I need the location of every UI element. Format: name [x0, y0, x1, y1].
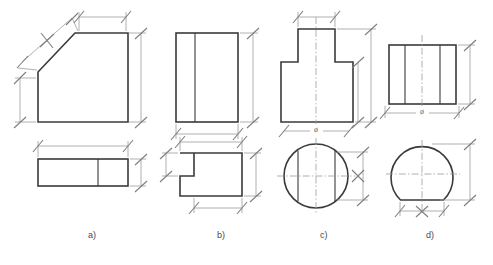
dimension-c-boss-width: [293, 11, 340, 27]
dimension-left-height: [14, 72, 36, 128]
figure-label-a: a): [88, 230, 96, 240]
dimension-top-width: [74, 11, 131, 31]
figure-label-b: b): [217, 230, 225, 240]
dimension-d-diameter: ø: [380, 106, 464, 119]
t-shaped-boss-front-view: [281, 17, 353, 133]
dimension-d-height: [458, 40, 476, 110]
diameter-symbol-c: ø: [314, 125, 318, 134]
figure-b: [160, 28, 262, 214]
dimension-plan-depth: [130, 154, 147, 192]
dimension-c-diameter: ø: [279, 124, 354, 137]
flat-cut-cylinder-front-view: [389, 35, 456, 115]
drawing-sheet: .obj{fill:none;stroke:#3a3a3a;stroke-wid…: [0, 0, 493, 265]
dimension-b-notch-height: [160, 148, 178, 182]
stepped-block-top-view: [180, 153, 242, 196]
technical-drawing-canvas: .obj{fill:none;stroke:#3a3a3a;stroke-wid…: [0, 0, 493, 265]
diameter-symbol-d: ø: [420, 107, 424, 116]
dimension-b-front-height: [240, 28, 259, 128]
figure-a: [14, 11, 147, 192]
dimension-plan-width: [33, 140, 133, 157]
dimension-b-front-width: [171, 124, 243, 140]
figure-label-c: c): [320, 230, 328, 240]
dimension-b-notch-width: [189, 198, 247, 214]
flat-cut-cylinder-top-view: [386, 140, 460, 210]
stepped-block-front-view: [176, 33, 238, 122]
dimension-c-overall-height: [337, 24, 377, 128]
figure-label-d: d): [426, 230, 434, 240]
dimension-b-plan-width: [175, 136, 247, 151]
chamfered-block-top-view: [38, 159, 128, 186]
dimension-b-plan-height: [244, 148, 262, 202]
figure-c: ø: [277, 11, 377, 214]
dimension-right-height: [129, 28, 147, 128]
dimension-d-circle-height: [432, 139, 476, 206]
t-shaped-boss-top-view: [277, 138, 355, 214]
figure-d: ø: [380, 35, 476, 217]
